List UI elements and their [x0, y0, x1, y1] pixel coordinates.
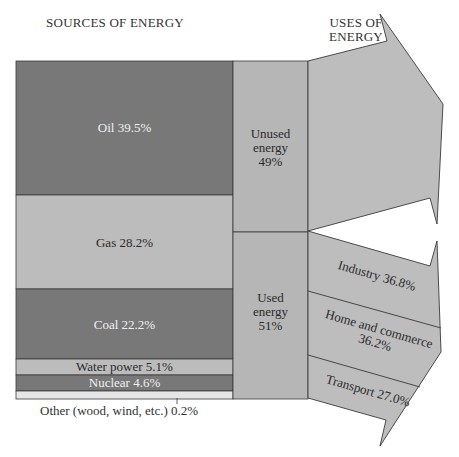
other-block [16, 391, 233, 399]
unused-energy-arrow [308, 14, 443, 231]
unused-line2: energy [233, 141, 308, 155]
unused-energy-label: Unused energy 49% [233, 127, 308, 169]
used-energy-label: Used energy 51% [233, 291, 308, 333]
nuclear-label: Nuclear 4.6% [16, 376, 233, 390]
unused-line1: Unused [233, 127, 308, 141]
unused-line3: 49% [233, 155, 308, 169]
other-label: Other (wood, wind, etc.) 0.2% [40, 403, 198, 419]
gas-label: Gas 28.2% [16, 236, 233, 250]
coal-label: Coal 22.2% [16, 318, 233, 332]
used-line1: Used [233, 291, 308, 305]
used-line3: 51% [233, 319, 308, 333]
water-power-label: Water power 5.1% [16, 360, 233, 374]
used-line2: energy [233, 305, 308, 319]
oil-label: Oil 39.5% [16, 121, 233, 135]
